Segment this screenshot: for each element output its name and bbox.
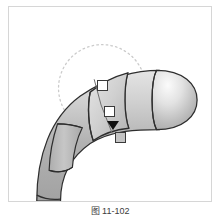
figure-caption: 图 11-102 [0, 206, 220, 217]
3d-viewport[interactable] [8, 6, 212, 202]
gizmo-handle-middle[interactable] [104, 106, 115, 117]
tube-head-cap[interactable] [152, 70, 197, 129]
manipulator-arrow-icon[interactable] [107, 121, 119, 130]
gizmo-handle-top[interactable] [97, 80, 108, 91]
figure-root: 图 11-102 [0, 0, 220, 218]
viewport-canvas[interactable] [9, 7, 211, 201]
gizmo-handle-bottom[interactable] [115, 132, 126, 143]
